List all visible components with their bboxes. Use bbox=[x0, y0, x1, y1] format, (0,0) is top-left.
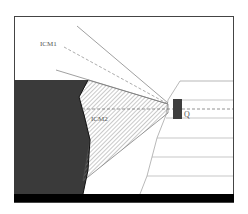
label-lower-sector: ICM2 bbox=[91, 115, 108, 123]
label-upper-sector: ICM1 bbox=[40, 40, 57, 48]
label-point-q: Q bbox=[184, 110, 190, 119]
base-band bbox=[14, 194, 234, 202]
diagram-canvas: ICM1 ICM2 Q bbox=[0, 0, 248, 214]
point-q-marker bbox=[173, 99, 182, 119]
